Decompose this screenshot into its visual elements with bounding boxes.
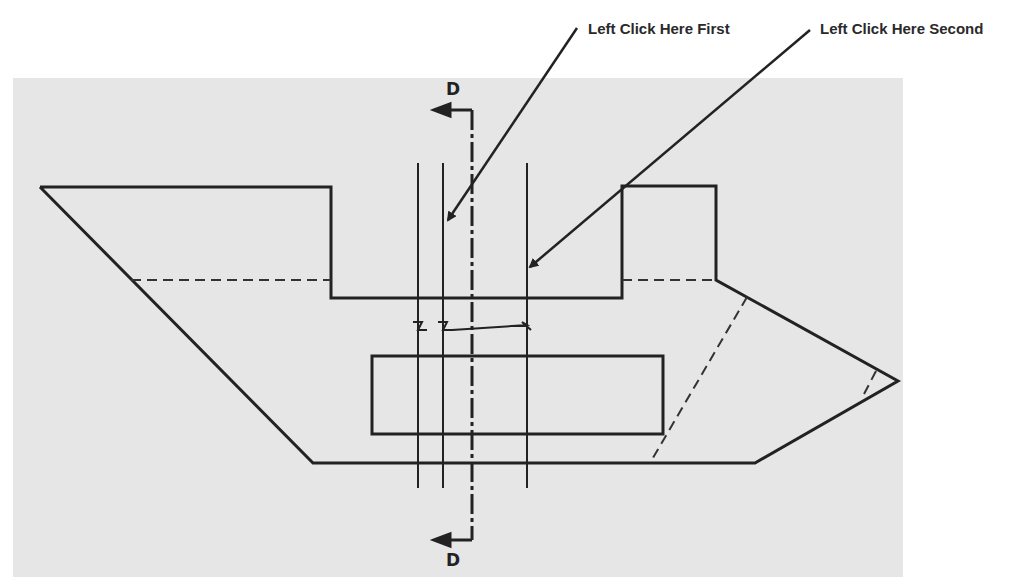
section-label-bottom: D	[446, 550, 460, 570]
inner-rect	[372, 356, 663, 434]
leader-first	[448, 28, 577, 220]
part-drawing	[0, 0, 1031, 584]
hidden-line	[650, 297, 747, 463]
section-label-top: D	[446, 79, 460, 99]
part-outline	[40, 186, 898, 463]
callout-second: Left Click Here Second	[820, 20, 983, 37]
leader-second	[530, 30, 810, 267]
callout-first: Left Click Here First	[588, 20, 730, 37]
